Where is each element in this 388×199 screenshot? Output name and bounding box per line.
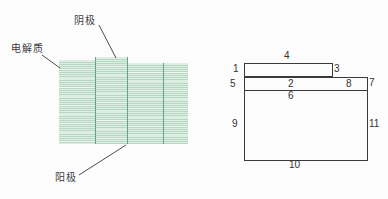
body-divider-line: [245, 90, 367, 91]
cell-layer-right: [127, 63, 188, 144]
layer-divider-3: [163, 63, 164, 144]
cathode-label: 阴极: [74, 16, 96, 26]
part-number-11: 11: [369, 119, 379, 129]
part-number-5: 5: [230, 79, 236, 89]
part-number-6: 6: [288, 91, 294, 101]
part-number-1: 1: [233, 64, 239, 74]
part-number-2: 2: [288, 79, 294, 89]
electrolyte-leader-line: [42, 55, 60, 68]
layer-divider-2: [127, 57, 128, 144]
anode-label: 阳极: [55, 173, 77, 183]
cathode-leader-line: [99, 25, 116, 58]
cell-layer-left: [59, 60, 95, 144]
figure-canvas: 阴极 电解质 阳极 1 2 3 4 5 6 7 8 9 10 11: [0, 0, 388, 199]
part-number-3: 3: [334, 64, 340, 74]
part-number-8: 8: [346, 79, 352, 89]
anode-leader-line: [79, 145, 126, 175]
part-number-4: 4: [284, 51, 290, 61]
electrolyte-label: 电解质: [11, 44, 44, 54]
part-number-7: 7: [369, 78, 375, 88]
layer-divider-1: [95, 57, 96, 144]
top-electrode-rect: [244, 63, 333, 77]
part-number-9: 9: [232, 119, 238, 129]
part-number-10: 10: [289, 160, 300, 170]
cathode-tab-layer: [95, 57, 127, 144]
